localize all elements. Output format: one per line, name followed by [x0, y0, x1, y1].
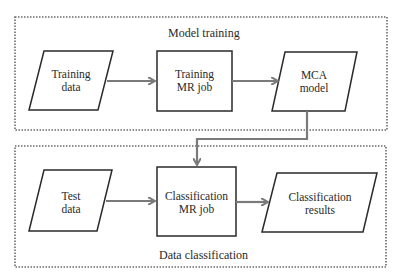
node-label-line1: MCA	[284, 69, 344, 82]
node-label-line2: model	[284, 82, 344, 95]
section-label-model-training: Model training	[168, 26, 240, 41]
node-label-line1: Classification	[157, 190, 236, 203]
section-label-data-classification: Data classification	[159, 248, 248, 263]
node-label-classification-mr-job: Classification MR job	[157, 190, 236, 216]
node-label-line2: results	[270, 204, 370, 217]
node-label-mca-model: MCA model	[284, 69, 344, 95]
node-label-training-mr-job: Training MR job	[157, 68, 232, 94]
node-label-training-data: Training data	[41, 68, 101, 94]
node-label-line2: MR job	[157, 81, 232, 94]
node-label-line1: Classification	[270, 191, 370, 204]
node-label-test-data: Test data	[41, 190, 101, 216]
node-label-line1: Test	[41, 190, 101, 203]
node-label-classification-results: Classification results	[270, 191, 370, 217]
node-label-line2: data	[41, 81, 101, 94]
node-label-line2: data	[41, 203, 101, 216]
node-label-line2: MR job	[157, 203, 236, 216]
node-label-line1: Training	[41, 68, 101, 81]
edge-mca-model-to-classification-job	[197, 111, 307, 164]
diagram-canvas	[0, 0, 401, 280]
node-label-line1: Training	[157, 68, 232, 81]
